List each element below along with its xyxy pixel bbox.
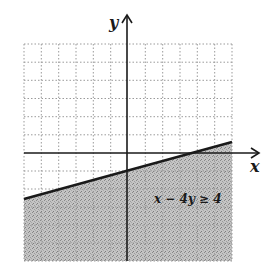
- y-axis-label: y: [108, 13, 120, 32]
- inequality-label: x − 4y ≥ 4: [153, 192, 222, 206]
- x-axis-label: x: [249, 157, 260, 176]
- inequality-graph: y x x − 4y ≥ 4: [0, 0, 274, 277]
